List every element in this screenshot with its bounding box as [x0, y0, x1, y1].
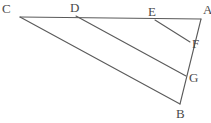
vertex-label-f: F — [192, 37, 199, 50]
vertex-label-c: C — [2, 2, 11, 15]
figure-canvas — [0, 0, 211, 123]
segment-c-b — [20, 17, 180, 104]
geometry-figure: CDEAFGB — [0, 0, 211, 123]
segment-e-f — [155, 20, 190, 42]
segment-c-a — [20, 17, 201, 19]
vertex-label-a: A — [203, 3, 211, 16]
vertex-label-b: B — [176, 107, 185, 120]
segment-a-b — [180, 19, 201, 104]
vertex-label-e: E — [148, 5, 156, 18]
vertex-label-d: D — [70, 1, 79, 14]
vertex-label-g: G — [189, 71, 198, 84]
segment-d-g — [76, 16, 186, 76]
